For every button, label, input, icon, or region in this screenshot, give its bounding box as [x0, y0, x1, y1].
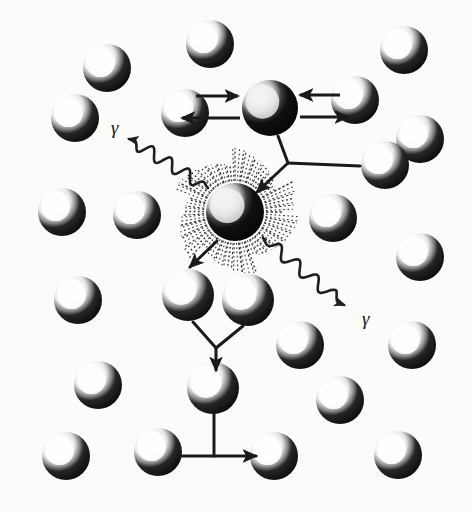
atom-r3-c2 [113, 191, 161, 239]
link-branch-right-to-node [216, 326, 243, 348]
atom-pka [242, 80, 298, 136]
link-pka-to-junction [278, 136, 288, 163]
atom-branch-right [222, 274, 274, 326]
link-right-atom-to-junction [288, 163, 360, 166]
displacement-cascade-figure: γ γ [0, 0, 473, 511]
atom-branch-left [162, 269, 214, 321]
atom-r6-c5 [374, 431, 422, 479]
atom-r3-c1 [38, 188, 86, 236]
atom-r2-c1 [51, 94, 99, 142]
atom-r3-c4 [309, 194, 357, 242]
figure-canvas: γ γ [0, 0, 473, 511]
atom-r1-c3 [380, 26, 428, 74]
atom-r1-c1 [83, 44, 131, 92]
atom-r5-c1 [74, 361, 122, 409]
atom-r6-c1 [42, 432, 90, 480]
arrow-burst-to-branch-left [190, 241, 217, 267]
atom-r3-c3 [361, 141, 409, 189]
atom-r6-c2 [134, 428, 182, 476]
atom-r5-c2 [276, 321, 324, 369]
gamma-label-right: γ [362, 308, 370, 329]
link-branch-left-to-node [193, 322, 216, 348]
atom-r5-c3 [388, 321, 436, 369]
atom-r6-c3 [316, 376, 364, 424]
gamma-label-left: γ [111, 117, 119, 138]
atom-r4-c1 [54, 276, 102, 324]
arrow-junction-to-burst [257, 163, 288, 192]
gamma-ray-upper-left [129, 139, 208, 188]
atom-lower [187, 362, 239, 414]
atom-r1-c2 [186, 20, 234, 68]
lattice-atom-group [38, 20, 444, 480]
atom-burst [206, 183, 264, 241]
atom-r4-c2 [396, 233, 444, 281]
